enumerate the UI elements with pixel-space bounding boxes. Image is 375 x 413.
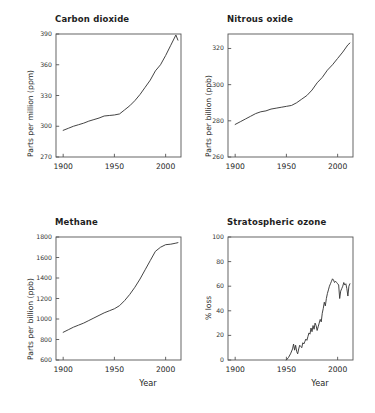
plot-area — [0, 0, 375, 413]
y-tick-label: 320 — [194, 44, 224, 51]
x-tick-label: 1900 — [43, 365, 83, 374]
data-series-line — [63, 243, 178, 333]
panel-title: Stratospheric ozone — [227, 217, 326, 227]
x-tick-label: 2000 — [146, 162, 186, 171]
y-tick-label: 60 — [194, 282, 224, 289]
y-axis-label: Parts per billion (ppb) — [204, 75, 213, 157]
data-series-line — [63, 35, 178, 130]
x-tick-label: 2000 — [146, 365, 186, 374]
plot-area — [0, 0, 375, 413]
y-tick-label: 0 — [194, 356, 224, 363]
data-series-line — [235, 43, 350, 124]
x-tick-label: 1900 — [215, 162, 255, 171]
y-tick-label: 80 — [194, 258, 224, 265]
y-tick-label: 100 — [194, 233, 224, 240]
x-tick-label: 1900 — [43, 162, 83, 171]
y-axis-label: Parts per million (ppm) — [26, 70, 35, 157]
y-axis-label: % loss — [204, 296, 213, 320]
x-tick-label: 1950 — [94, 162, 134, 171]
y-tick-label: 390 — [22, 30, 52, 37]
panel-title: Nitrous oxide — [227, 14, 293, 24]
x-tick-label: 2000 — [318, 162, 358, 171]
y-axis-label: Parts per billion (ppb) — [26, 278, 35, 360]
y-tick-label: 1800 — [22, 233, 52, 240]
y-tick-label: 1600 — [22, 254, 52, 261]
plot-frame — [228, 237, 353, 360]
plot-area — [0, 0, 375, 413]
y-tick-label: 20 — [194, 331, 224, 338]
panel-title: Carbon dioxide — [55, 14, 129, 24]
x-tick-label: 1950 — [266, 365, 306, 374]
x-tick-label: 2000 — [318, 365, 358, 374]
x-tick-label: 1950 — [266, 162, 306, 171]
plot-area — [0, 0, 375, 413]
plot-frame — [56, 237, 181, 360]
panel-title: Methane — [55, 217, 98, 227]
x-tick-label: 1900 — [215, 365, 255, 374]
plot-frame — [228, 34, 353, 157]
plot-frame — [56, 34, 181, 157]
data-series-line — [286, 279, 350, 360]
climate-indicators-figure: Carbon dioxide27030033036039019001950200… — [0, 0, 375, 413]
x-tick-label: 1950 — [94, 365, 134, 374]
y-tick-label: 360 — [22, 61, 52, 68]
x-axis-label: Year — [290, 378, 350, 388]
x-axis-label: Year — [118, 378, 178, 388]
